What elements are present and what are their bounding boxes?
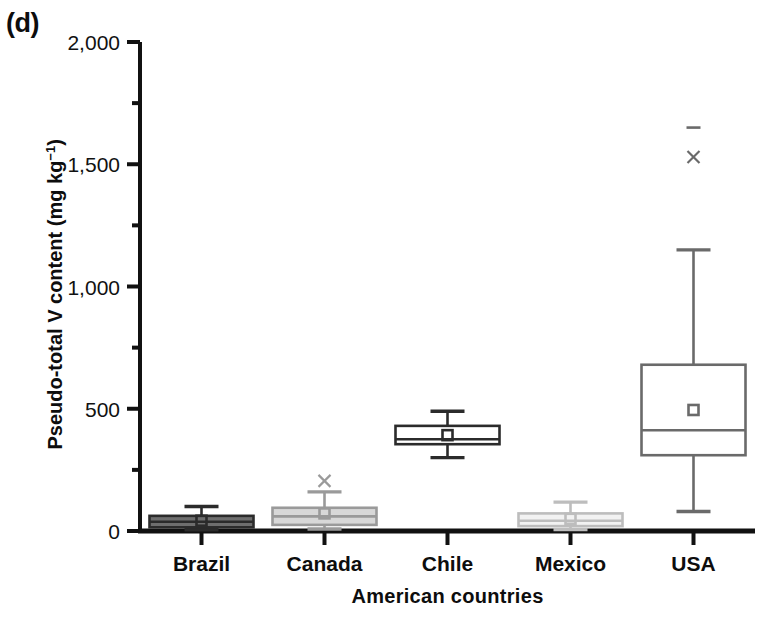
y-axis-tick-label: 2,000 bbox=[67, 31, 120, 54]
box-plot-figure: (d) Pseudo-total V content (mg kg−1) Ame… bbox=[0, 0, 775, 617]
box-plot-usa bbox=[642, 128, 746, 512]
plot-area: 05001,0001,5002,000 BrazilCanadaChileMex… bbox=[0, 0, 775, 617]
x-axis-category-label: Canada bbox=[287, 552, 363, 575]
x-axis-category-label: Brazil bbox=[173, 552, 230, 575]
box-plot-mexico bbox=[519, 502, 623, 529]
x-axis-category-label: Chile bbox=[422, 552, 473, 575]
y-axis-tick-label: 1,000 bbox=[67, 276, 120, 299]
y-axis-tick-label: 1,500 bbox=[67, 153, 120, 176]
x-axis-category-label: USA bbox=[671, 552, 715, 575]
box-body bbox=[642, 365, 746, 455]
x-axis: BrazilCanadaChileMexicoUSA bbox=[138, 531, 755, 575]
box-plot-brazil bbox=[150, 507, 254, 530]
box-plot-canada bbox=[273, 475, 377, 529]
box-plot-chile bbox=[396, 411, 500, 457]
box-series bbox=[150, 128, 746, 530]
y-axis-tick-label: 500 bbox=[85, 398, 120, 421]
y-axis: 05001,0001,5002,000 bbox=[67, 31, 140, 543]
x-axis-category-label: Mexico bbox=[535, 552, 606, 575]
y-axis-tick-label: 0 bbox=[108, 520, 120, 543]
